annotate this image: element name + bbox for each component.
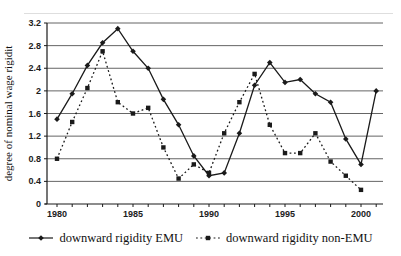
data-point-marker bbox=[207, 171, 211, 175]
data-point-marker bbox=[192, 162, 196, 166]
plot-svg: 00.40.81.21.622.42.83.219801985199019952… bbox=[0, 0, 401, 228]
data-point-marker bbox=[343, 136, 349, 142]
data-point-marker bbox=[358, 162, 364, 168]
y-tick-label: 0.8 bbox=[28, 154, 41, 164]
data-point-marker bbox=[237, 130, 243, 136]
y-tick-label: 1.2 bbox=[28, 131, 41, 141]
y-tick-label: 0 bbox=[36, 199, 41, 209]
x-tick-label: 1980 bbox=[47, 209, 67, 219]
series-line-1 bbox=[57, 51, 361, 190]
legend: downward rigidity EMU downward rigidity … bbox=[0, 229, 401, 247]
data-point-marker bbox=[69, 91, 75, 97]
legend-label-emu: downward rigidity EMU bbox=[59, 231, 183, 246]
x-tick-label: 2000 bbox=[351, 209, 371, 219]
data-point-marker bbox=[116, 100, 120, 104]
data-point-marker bbox=[161, 145, 165, 149]
y-tick-label: 1.6 bbox=[28, 109, 41, 119]
data-point-marker bbox=[221, 170, 227, 176]
non-emu-line-sample-icon bbox=[195, 232, 221, 244]
x-tick-label: 1995 bbox=[275, 209, 295, 219]
data-point-marker bbox=[222, 131, 226, 135]
emu-line-sample-icon bbox=[28, 232, 54, 244]
data-point-marker bbox=[359, 188, 363, 192]
y-tick-label: 2.8 bbox=[28, 41, 41, 51]
data-point-marker bbox=[283, 151, 287, 155]
data-point-marker bbox=[298, 151, 302, 155]
x-tick-label: 1990 bbox=[199, 209, 219, 219]
legend-item-non-emu: downward rigidity non-EMU bbox=[195, 231, 373, 246]
data-point-marker bbox=[268, 123, 272, 127]
data-point-marker bbox=[313, 131, 317, 135]
wage-rigidity-chart: 00.40.81.21.622.42.83.219801985199019952… bbox=[0, 0, 401, 256]
data-point-marker bbox=[54, 116, 60, 122]
data-point-marker bbox=[85, 86, 89, 90]
y-tick-label: 2.4 bbox=[28, 63, 41, 73]
data-point-marker bbox=[70, 120, 74, 124]
data-point-marker bbox=[55, 157, 59, 161]
data-point-marker bbox=[344, 174, 348, 178]
data-point-marker bbox=[237, 100, 241, 104]
x-tick-label: 1985 bbox=[123, 209, 143, 219]
data-point-marker bbox=[176, 122, 182, 128]
y-tick-label: 0.4 bbox=[28, 176, 41, 186]
y-axis-title: degree of nominal wage rigidit bbox=[2, 46, 14, 182]
y-tick-label: 2 bbox=[36, 86, 41, 96]
data-point-marker bbox=[328, 159, 332, 163]
data-point-marker bbox=[176, 176, 180, 180]
data-point-marker bbox=[161, 97, 167, 103]
data-point-marker bbox=[328, 99, 334, 105]
data-point-marker bbox=[131, 111, 135, 115]
y-tick-label: 3.2 bbox=[28, 18, 41, 28]
data-point-marker bbox=[373, 88, 379, 94]
legend-label-non-emu: downward rigidity non-EMU bbox=[226, 231, 373, 246]
data-point-marker bbox=[146, 106, 150, 110]
legend-item-emu: downward rigidity EMU bbox=[28, 231, 183, 246]
data-point-marker bbox=[252, 72, 256, 76]
data-point-marker bbox=[100, 49, 104, 53]
